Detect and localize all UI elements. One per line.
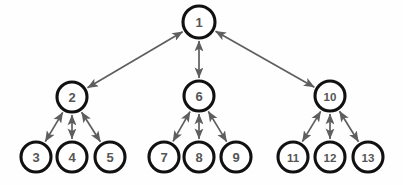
node-6[interactable]: 6 — [184, 81, 214, 111]
node-8[interactable]: 8 — [184, 142, 214, 172]
node-label-1: 1 — [195, 15, 202, 30]
edge-1-10 — [216, 31, 315, 87]
edge-6-9 — [208, 111, 226, 141]
diagram-canvas: 12610345789111213 — [0, 0, 403, 185]
node-7[interactable]: 7 — [149, 142, 179, 172]
edge-1-2 — [88, 32, 183, 88]
node-2[interactable]: 2 — [57, 82, 87, 112]
node-label-2: 2 — [68, 90, 75, 105]
tree-diagram: 12610345789111213 — [0, 0, 403, 185]
node-label-5: 5 — [106, 150, 113, 165]
node-label-13: 13 — [362, 152, 375, 164]
edge-10-13 — [340, 111, 359, 141]
edge-2-3 — [45, 112, 62, 141]
node-1[interactable]: 1 — [183, 6, 215, 38]
node-label-7: 7 — [160, 150, 167, 165]
node-label-10: 10 — [324, 91, 337, 103]
node-5[interactable]: 5 — [95, 142, 125, 172]
node-label-6: 6 — [195, 89, 202, 104]
node-4[interactable]: 4 — [57, 142, 87, 172]
edge-6-7 — [173, 112, 190, 142]
node-label-8: 8 — [195, 150, 202, 165]
node-12[interactable]: 12 — [315, 142, 345, 172]
node-9[interactable]: 9 — [221, 142, 251, 172]
node-label-3: 3 — [32, 150, 39, 165]
node-label-4: 4 — [68, 150, 76, 165]
edge-10-11 — [302, 111, 320, 141]
node-11[interactable]: 11 — [278, 142, 308, 172]
node-label-11: 11 — [287, 152, 300, 164]
node-10[interactable]: 10 — [315, 81, 345, 111]
node-label-12: 12 — [324, 152, 337, 164]
node-layer: 12610345789111213 — [21, 6, 383, 172]
edge-2-5 — [82, 112, 101, 142]
node-3[interactable]: 3 — [21, 142, 51, 172]
node-13[interactable]: 13 — [353, 142, 383, 172]
node-label-9: 9 — [232, 150, 239, 165]
